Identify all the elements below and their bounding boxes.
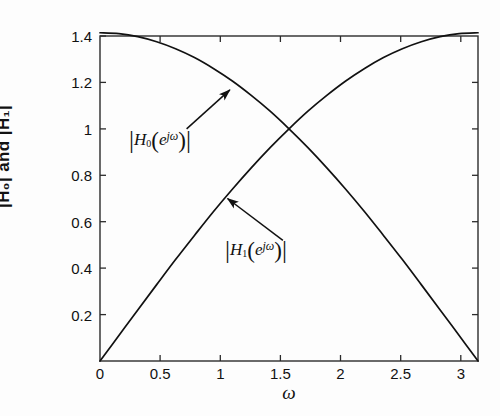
- y-tick-label-1-4: 1.4: [54, 28, 92, 45]
- x-tick-label-3: 3: [457, 365, 465, 382]
- figure-container: 0.2 0.4 0.6 0.8 1 1.2 1.4 0 0.5 1 1.5 2 …: [0, 0, 500, 416]
- series-line-h1: [100, 33, 478, 361]
- chart-plot-area: [0, 0, 500, 416]
- paren-left-h1: (: [247, 238, 255, 263]
- annotation-arrow-h0: [187, 90, 230, 129]
- annotation-label-h0: |H0(ejω)|: [129, 126, 191, 154]
- annot-h1-fn: H: [230, 240, 242, 259]
- abs-bar-right-h1: |: [282, 236, 287, 263]
- x-tick-label-1: 1: [216, 365, 224, 382]
- y-tick-label-1-2: 1.2: [54, 74, 92, 91]
- annotation-label-h1: |H1(ejω)|: [225, 236, 287, 264]
- y-tick-label-0-4: 0.4: [54, 260, 92, 277]
- x-axis-ticks: [160, 36, 461, 361]
- series-line-h0: [100, 33, 478, 361]
- abs-bar-right-h0: |: [186, 126, 191, 153]
- y-tick-label-0-6: 0.6: [54, 213, 92, 230]
- paren-right-h1: ): [274, 238, 282, 263]
- annot-h0-fn: H: [134, 130, 146, 149]
- x-tick-label-1-5: 1.5: [270, 365, 291, 382]
- annot-h0-exp: jω: [167, 129, 179, 143]
- axes-frame: [100, 36, 478, 361]
- paren-left-h0: (: [151, 128, 159, 153]
- annot-h1-base: e: [255, 240, 263, 259]
- y-tick-label-0-8: 0.8: [54, 167, 92, 184]
- y-tick-label-0-2: 0.2: [54, 306, 92, 323]
- x-tick-label-0-5: 0.5: [150, 365, 171, 382]
- annot-h1-exp: jω: [263, 239, 275, 253]
- x-tick-label-0: 0: [96, 365, 104, 382]
- x-tick-label-2-5: 2.5: [390, 365, 411, 382]
- x-tick-label-2: 2: [336, 365, 344, 382]
- y-axis-ticks: [100, 36, 478, 315]
- y-axis-label: |H₀| and |H₁|: [0, 105, 14, 208]
- annot-h0-base: e: [159, 130, 167, 149]
- plot-border: [100, 36, 478, 361]
- annotation-arrow-h1: [228, 199, 283, 241]
- paren-right-h0: ): [178, 128, 186, 153]
- x-axis-label: ω: [282, 382, 295, 404]
- y-tick-label-1: 1: [54, 120, 92, 137]
